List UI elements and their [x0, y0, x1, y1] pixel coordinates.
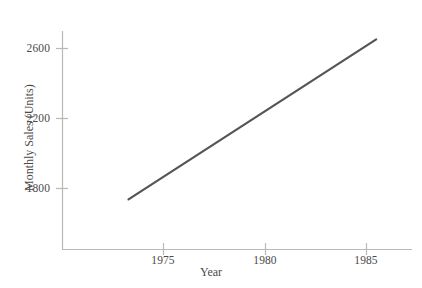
y-axis-title: Monthly Sales (Units): [22, 84, 37, 191]
x-axis-title: Year: [0, 265, 422, 280]
data-line-monthly-sales: [129, 39, 377, 199]
chart-figure: 2600 2200 1800 1975 1980 1985 Monthly Sa…: [0, 0, 422, 288]
y-tick-label-2600: 2600: [8, 42, 50, 54]
chart-plot-area: [0, 0, 422, 288]
